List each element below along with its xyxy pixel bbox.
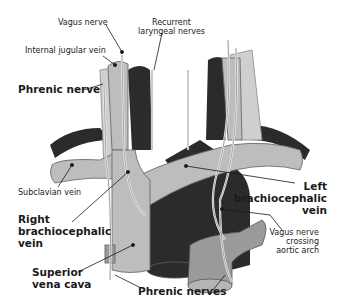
- label-vagus-crossing-aortic-arch: Vagus nerve crossing aortic arch: [269, 228, 319, 256]
- label-line: vena cava: [32, 278, 91, 290]
- right-internal-jugular-vein: [108, 61, 128, 150]
- label-superior-vena-cava: Superior vena cava: [32, 266, 91, 290]
- svc: [112, 150, 150, 273]
- label-phrenic-nerves: Phrenic nerves: [138, 285, 226, 297]
- label-line: vein: [18, 237, 111, 249]
- label-vagus-nerve: Vagus nerve: [58, 18, 108, 27]
- label-phrenic-nerve: Phrenic nerve: [18, 83, 100, 95]
- label-subclavian-vein: Subclavian vein: [18, 188, 81, 197]
- label-internal-jugular-vein: Internal jugular vein: [25, 46, 106, 55]
- label-recurrent-laryngeal-nerves: Recurrent laryngeal nerves: [138, 18, 205, 36]
- label-line: brachiocephalic: [18, 225, 111, 237]
- label-line: Vagus nerve: [269, 228, 319, 237]
- label-line: brachiocephalic: [234, 192, 327, 204]
- label-left-brachiocephalic-vein: Left brachiocephalic vein: [234, 180, 327, 216]
- label-line: Left: [234, 180, 327, 192]
- label-line: Recurrent: [138, 18, 205, 27]
- label-line: Right: [18, 213, 111, 225]
- label-line: crossing: [269, 237, 319, 246]
- label-line: laryngeal nerves: [138, 27, 205, 36]
- label-line: aortic arch: [269, 246, 319, 255]
- label-right-brachiocephalic-vein: Right brachiocephalic vein: [18, 213, 111, 249]
- label-line: vein: [234, 204, 327, 216]
- label-line: Superior: [32, 266, 91, 278]
